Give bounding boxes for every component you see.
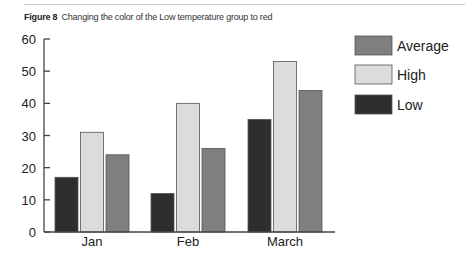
bar-low-march	[248, 119, 271, 232]
bar-average-march	[299, 90, 322, 232]
y-axis: 0102030405060	[22, 32, 50, 240]
y-tick-label: 30	[22, 129, 36, 144]
bar-high-jan	[81, 132, 104, 232]
bars	[55, 62, 322, 232]
bar-chart: 0102030405060 JanFebMarch AverageHighLow	[0, 0, 465, 262]
legend-label-average: Average	[397, 38, 449, 54]
x-axis: JanFebMarch	[44, 232, 335, 249]
legend-swatch-low	[355, 95, 392, 114]
bar-low-feb	[151, 193, 174, 232]
y-tick-label: 0	[29, 225, 36, 240]
legend: AverageHighLow	[355, 36, 449, 114]
y-tick-label: 40	[22, 96, 36, 111]
legend-swatch-average	[355, 36, 392, 55]
bar-average-feb	[202, 148, 225, 232]
bar-low-jan	[55, 177, 78, 232]
legend-label-low: Low	[397, 97, 424, 113]
y-tick-label: 60	[22, 32, 36, 47]
y-tick-label: 10	[22, 193, 36, 208]
x-category-label: March	[267, 234, 303, 249]
bar-high-march	[274, 62, 297, 232]
x-category-label: Feb	[177, 234, 199, 249]
legend-swatch-high	[355, 65, 392, 84]
x-category-label: Jan	[82, 234, 103, 249]
y-tick-label: 50	[22, 64, 36, 79]
bar-high-feb	[177, 103, 200, 232]
y-tick-label: 20	[22, 161, 36, 176]
legend-label-high: High	[397, 67, 426, 83]
bar-average-jan	[106, 155, 129, 232]
